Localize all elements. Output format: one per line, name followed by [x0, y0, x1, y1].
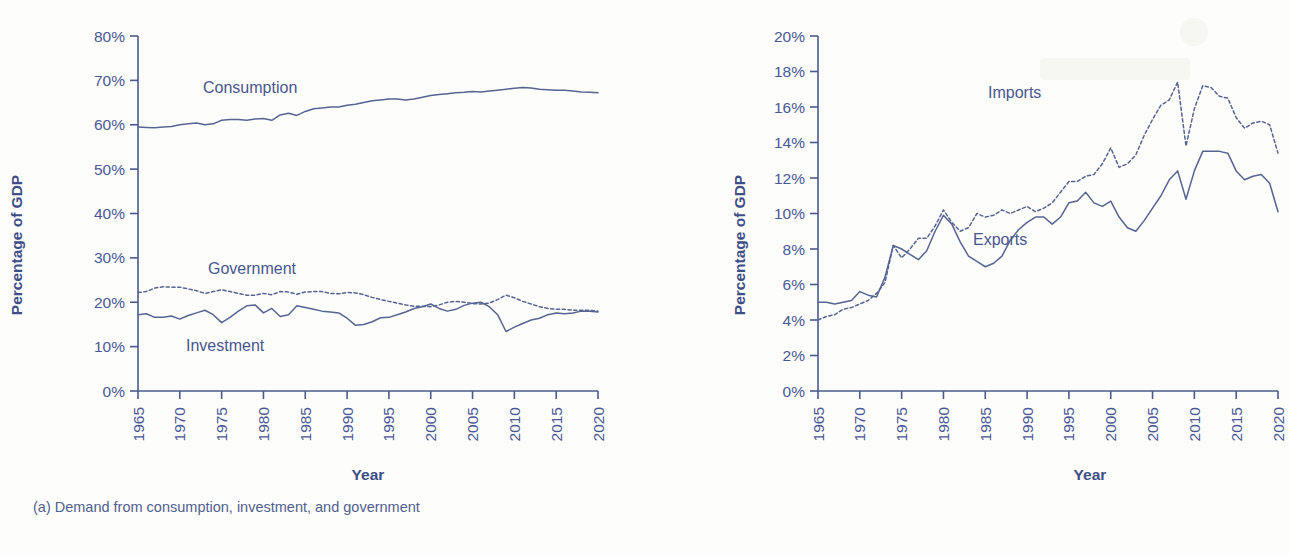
x-tick-label: 1980 [935, 407, 952, 442]
y-tick-label: 2% [783, 347, 806, 364]
chart-a-x-axis-title: Year [352, 466, 385, 483]
y-tick-label: 70% [94, 72, 125, 89]
x-tick-label: 2015 [1228, 407, 1245, 441]
x-tick-label: 1995 [380, 407, 397, 441]
x-tick-label: 2005 [1144, 407, 1161, 441]
series-line-exports [818, 151, 1278, 304]
y-tick-label: 10% [94, 338, 125, 355]
chart-a-caption: (a) Demand from consumption, investment,… [33, 499, 420, 515]
y-tick-label: 80% [94, 28, 125, 45]
y-tick-label: 6% [783, 276, 806, 293]
series-label-government: Government [208, 260, 297, 277]
chart-b-svg: 0%2%4%6%8%10%12%14%16%18%20% 19651970197… [645, 0, 1290, 495]
chart-a-x-axis: 1965197019751980198519901995200020052010… [130, 391, 607, 441]
x-tick-label: 1975 [893, 407, 910, 441]
x-tick-label: 1985 [297, 407, 314, 441]
chart-b-y-axis-title: Percentage of GDP [731, 175, 748, 315]
chart-b-series [818, 82, 1278, 320]
x-tick-label: 2020 [590, 407, 607, 442]
series-label-exports: Exports [973, 231, 1027, 248]
series-line-imports [818, 82, 1278, 320]
series-line-government [138, 287, 598, 311]
chart-b-y-axis: 0%2%4%6%8%10%12%14%16%18%20% [774, 28, 818, 400]
x-tick-label: 2020 [1270, 407, 1287, 442]
chart-b-x-axis: 1965197019751980198519901995200020052010… [810, 391, 1287, 441]
y-tick-label: 60% [94, 116, 125, 133]
x-tick-label: 1980 [255, 407, 272, 442]
x-tick-label: 1975 [213, 407, 230, 441]
x-tick-label: 1965 [130, 407, 147, 441]
x-tick-label: 2015 [548, 407, 565, 441]
chart-a-svg: 0%10%20%30%40%50%60%70%80% 1965197019751… [0, 0, 645, 495]
x-tick-label: 1965 [810, 407, 827, 441]
y-tick-label: 14% [774, 134, 805, 151]
y-tick-label: 20% [774, 28, 805, 45]
series-line-investment [138, 302, 598, 331]
chart-panel-b: 0%2%4%6%8%10%12%14%16%18%20% 19651970197… [645, 0, 1290, 556]
y-tick-label: 18% [774, 63, 805, 80]
chart-a-y-axis-title: Percentage of GDP [8, 175, 25, 315]
x-tick-label: 1990 [339, 407, 356, 442]
chart-b-x-axis-title: Year [1074, 466, 1107, 483]
y-tick-label: 50% [94, 161, 125, 178]
x-tick-label: 2000 [422, 407, 439, 442]
chart-a-y-axis: 0%10%20%30%40%50%60%70%80% [94, 28, 138, 400]
x-tick-label: 2010 [1186, 407, 1203, 442]
x-tick-label: 1995 [1060, 407, 1077, 441]
y-tick-label: 16% [774, 99, 805, 116]
y-tick-label: 0% [103, 383, 126, 400]
y-tick-label: 4% [783, 312, 806, 329]
y-tick-label: 0% [783, 383, 806, 400]
figure-page: 0%10%20%30%40%50%60%70%80% 1965197019751… [0, 0, 1290, 556]
x-tick-label: 1990 [1019, 407, 1036, 442]
x-tick-label: 1970 [851, 407, 868, 442]
y-tick-label: 8% [783, 241, 806, 258]
y-tick-label: 12% [774, 170, 805, 187]
series-label-imports: Imports [988, 84, 1041, 101]
x-tick-label: 2000 [1102, 407, 1119, 442]
y-tick-label: 30% [94, 249, 125, 266]
x-tick-label: 1970 [171, 407, 188, 442]
x-tick-label: 2005 [464, 407, 481, 441]
x-tick-label: 1985 [977, 407, 994, 441]
series-label-investment: Investment [186, 337, 265, 354]
y-tick-label: 10% [774, 205, 805, 222]
chart-a-series [138, 87, 598, 331]
series-label-consumption: Consumption [203, 79, 297, 96]
y-tick-label: 20% [94, 294, 125, 311]
chart-panel-a: 0%10%20%30%40%50%60%70%80% 1965197019751… [0, 0, 645, 556]
chart-b-axis-lines [818, 36, 1278, 391]
y-tick-label: 40% [94, 205, 125, 222]
x-tick-label: 2010 [506, 407, 523, 442]
